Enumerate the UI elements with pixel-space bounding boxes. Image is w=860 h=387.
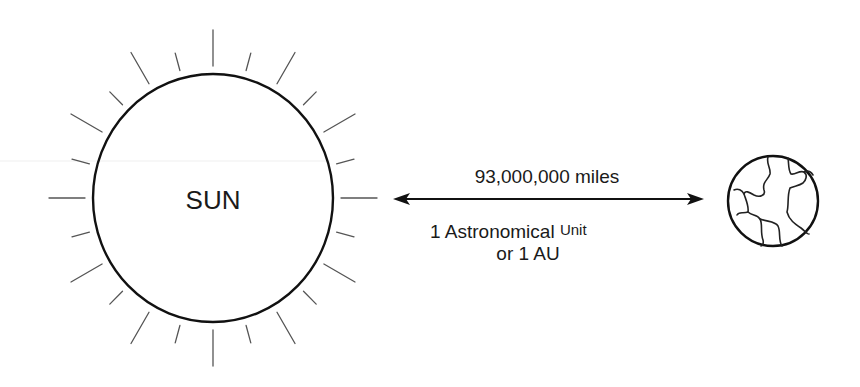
astronomical-unit-small: Unit (560, 221, 588, 238)
sun-earth-diagram: SUN 93,000,000 miles 1 Astronomical Unit… (0, 0, 860, 387)
sun-ray (246, 53, 251, 70)
astronomical-unit-label: 1 Astronomical Unit (430, 221, 587, 242)
sun-ray (71, 264, 102, 282)
sun-ray (175, 326, 180, 343)
au-label: or 1 AU (496, 243, 559, 264)
sun-ray (175, 53, 180, 70)
sun-ray (337, 232, 354, 237)
sun-ray (277, 312, 295, 343)
sun-label: SUN (186, 185, 241, 215)
sun-ray (324, 264, 355, 282)
sun-ray (72, 232, 89, 237)
sun-ray (110, 291, 123, 304)
sun-ray (324, 114, 355, 132)
distance-miles-label: 93,000,000 miles (475, 166, 620, 187)
sun-ray (304, 92, 317, 105)
sun-ray (246, 326, 251, 343)
sun-ray (71, 114, 102, 132)
sun-ray (337, 159, 354, 164)
sun-ray (277, 53, 295, 84)
sun-ray (110, 92, 123, 105)
sun-ray (131, 312, 149, 343)
sun-ray (304, 291, 317, 304)
sun-ray (131, 53, 149, 84)
earth-icon (728, 156, 818, 246)
distance-arrow (393, 193, 704, 205)
astronomical-unit-main: 1 Astronomical (430, 221, 555, 242)
